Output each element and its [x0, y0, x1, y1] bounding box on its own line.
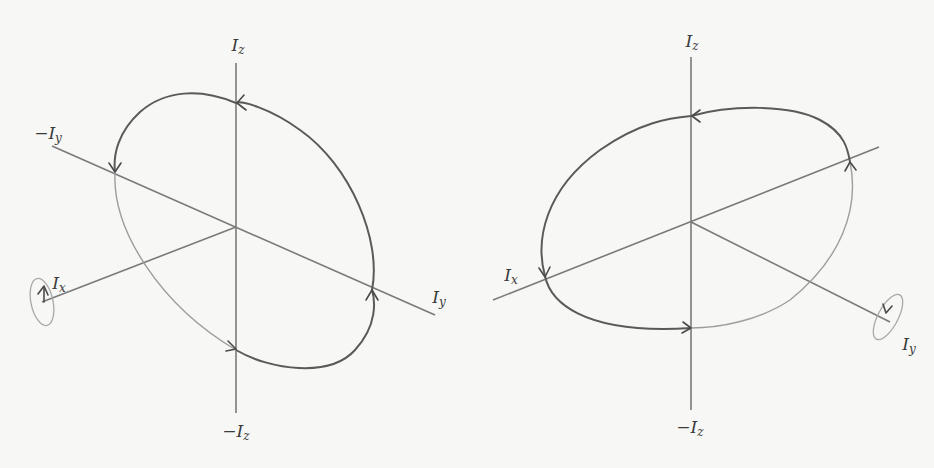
right-orbit-front-lower: [545, 276, 691, 329]
left-label-neg-iy: −Iy: [34, 123, 62, 145]
left-orbit-back: [115, 172, 236, 350]
right-label-ix: Ix: [504, 265, 518, 287]
left-panel: [26, 63, 435, 413]
left-arrow-bottom-icon: [226, 341, 236, 351]
right-label-iy: Iy: [902, 334, 916, 356]
right-label-neg-iz: −Iz: [676, 417, 703, 439]
right-arrow-top-icon: [692, 110, 700, 122]
left-label-ix: Ix: [52, 273, 66, 295]
left-ix-axis: [42, 227, 236, 302]
right-iy-axis: [691, 222, 890, 322]
right-ix-axis: [493, 147, 879, 300]
right-panel: [493, 57, 909, 410]
right-label-iz: Iz: [685, 31, 698, 53]
right-orbit-front: [542, 108, 850, 276]
left-label-iz: Iz: [231, 35, 244, 57]
diagram-canvas: [0, 0, 934, 468]
left-label-iy: Iy: [432, 287, 446, 309]
left-label-neg-iz: −Iz: [222, 421, 249, 443]
right-iy-rotation-arrow-icon: [883, 304, 892, 313]
left-arrow-right-icon: [366, 290, 378, 300]
left-iy-axis: [52, 146, 435, 315]
right-orbit-back: [691, 162, 853, 328]
left-ix-rotation-arrow-icon: [38, 286, 48, 295]
